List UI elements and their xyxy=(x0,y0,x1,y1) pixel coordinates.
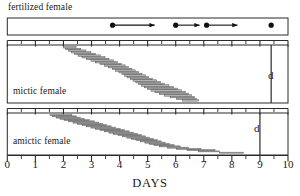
x-tick-label-7: 7 xyxy=(194,158,214,170)
bar xyxy=(140,141,161,142)
bar xyxy=(131,138,153,139)
bar xyxy=(78,55,100,56)
event-dot-1 xyxy=(173,23,178,28)
bar xyxy=(91,127,116,128)
bar xyxy=(75,53,96,54)
bar xyxy=(151,90,181,91)
bar xyxy=(50,115,72,116)
d-label-mictic: d xyxy=(268,69,274,81)
x-tick-label-5: 5 xyxy=(138,158,158,170)
bar xyxy=(155,91,185,92)
bar xyxy=(164,95,191,96)
bar xyxy=(82,57,105,58)
tick-rail-0 xyxy=(7,41,288,47)
x-tick-label-3: 3 xyxy=(82,158,102,170)
panel-label-mictic-female: mictic female xyxy=(13,86,66,96)
bar xyxy=(86,58,108,59)
x-tick-label-2: 2 xyxy=(53,158,73,170)
bar xyxy=(136,140,157,141)
x-tick-label-9: 9 xyxy=(250,158,270,170)
tick-rail-1 xyxy=(7,109,288,115)
bar xyxy=(139,83,165,84)
x-tick-label-1: 1 xyxy=(25,158,45,170)
bar xyxy=(154,145,174,146)
bar xyxy=(122,136,145,137)
bar xyxy=(116,70,136,71)
bar xyxy=(125,75,146,76)
event-dot-2 xyxy=(204,23,209,28)
panel-content-amictic-female xyxy=(50,113,260,155)
bar xyxy=(109,132,134,133)
bar xyxy=(56,117,80,118)
bar xyxy=(170,96,194,97)
bar xyxy=(145,142,165,143)
bar xyxy=(133,80,157,81)
panel-frame-amictic-female xyxy=(7,113,288,155)
bar xyxy=(60,118,84,119)
bar xyxy=(112,68,132,69)
event-dot-3 xyxy=(269,23,274,28)
bar xyxy=(86,126,111,127)
bar xyxy=(108,67,128,68)
bar xyxy=(122,73,142,74)
bar xyxy=(73,122,99,123)
panel-label-fertilized-female: fertilized female xyxy=(8,2,72,12)
bar xyxy=(68,121,94,122)
bar xyxy=(198,151,219,152)
bar xyxy=(71,52,91,53)
bar xyxy=(176,148,201,149)
bar xyxy=(77,123,102,124)
bar xyxy=(95,62,117,63)
bar xyxy=(68,50,85,51)
x-axis-title: DAYS xyxy=(0,176,300,191)
bar xyxy=(127,137,149,138)
bar xyxy=(136,81,161,82)
bar xyxy=(104,65,125,66)
bar xyxy=(100,63,121,64)
x-tick-label-4: 4 xyxy=(110,158,130,170)
panel-content-mictic-female xyxy=(63,45,271,103)
bar xyxy=(91,60,113,61)
bar xyxy=(148,88,178,89)
bar xyxy=(63,47,76,48)
bar xyxy=(100,130,125,131)
bar xyxy=(64,120,89,121)
bar xyxy=(95,128,120,129)
bar xyxy=(53,116,77,117)
bar xyxy=(149,143,169,144)
bar xyxy=(144,86,173,87)
bar xyxy=(167,147,188,148)
x-tick-label-8: 8 xyxy=(222,158,242,170)
bar xyxy=(130,78,152,79)
bar xyxy=(127,76,148,77)
bar xyxy=(182,100,198,101)
bar xyxy=(104,131,129,132)
bar xyxy=(82,125,107,126)
bar xyxy=(187,150,215,151)
panel-frame-fertilized-female xyxy=(7,18,288,35)
x-tick-label-6: 6 xyxy=(166,158,186,170)
bar xyxy=(176,98,196,99)
bar xyxy=(141,85,169,86)
event-dot-0 xyxy=(110,23,115,28)
bar xyxy=(220,152,244,153)
bar xyxy=(119,72,139,73)
d-label-amictic: d xyxy=(254,122,260,134)
bar xyxy=(118,135,142,136)
bar xyxy=(113,133,137,134)
x-tick-label-0: 0 xyxy=(0,158,17,170)
panel-content-fertilized-female xyxy=(110,23,274,28)
panel-label-amictic-female: amictic female xyxy=(13,136,71,146)
bar xyxy=(159,93,188,94)
bar xyxy=(66,48,81,49)
x-tick-label-10: 10 xyxy=(278,158,298,170)
bar xyxy=(159,146,180,147)
